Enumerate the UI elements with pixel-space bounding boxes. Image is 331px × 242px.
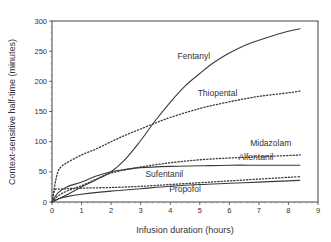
x-tick-label: 3 <box>139 206 143 215</box>
x-tick-label: 9 <box>316 206 320 215</box>
x-tick-label: 2 <box>109 206 113 215</box>
y-axis-label: Context-sensitive half-time (minutes) <box>7 39 17 185</box>
y-tick-label: 150 <box>34 107 47 116</box>
label-alfentanil: Alfentanil <box>238 152 273 162</box>
x-tick-label: 0 <box>50 206 54 215</box>
x-axis-label: Infusion duration (hours) <box>136 225 234 235</box>
y-axis-ticks: 050100150200250300 <box>34 17 52 207</box>
label-propofol: Propofol <box>169 184 201 194</box>
label-thiopental: Thiopental <box>198 88 238 98</box>
x-tick-label: 1 <box>79 206 83 215</box>
y-tick-label: 100 <box>34 137 47 146</box>
y-tick-label: 200 <box>34 77 47 86</box>
label-sufentanil: Sufentanil <box>145 169 183 179</box>
line-chart: 0123456789 050100150200250300 FentanylTh… <box>0 0 331 242</box>
label-midazolam: Midazolam <box>250 138 291 148</box>
y-tick-label: 250 <box>34 47 47 56</box>
y-tick-label: 300 <box>34 17 47 26</box>
y-tick-label: 50 <box>39 167 47 176</box>
y-tick-label: 0 <box>43 198 47 207</box>
x-tick-label: 4 <box>168 206 172 215</box>
x-tick-label: 5 <box>198 206 202 215</box>
x-tick-label: 7 <box>257 206 261 215</box>
curve-labels: FentanylThiopentalMidazolamAlfentanilSuf… <box>145 51 291 194</box>
plot-frame <box>52 21 318 202</box>
label-fentanyl: Fentanyl <box>178 51 211 61</box>
plot-border <box>52 21 318 202</box>
x-tick-label: 6 <box>227 206 231 215</box>
x-tick-label: 8 <box>286 206 290 215</box>
x-axis-ticks: 0123456789 <box>50 202 320 215</box>
